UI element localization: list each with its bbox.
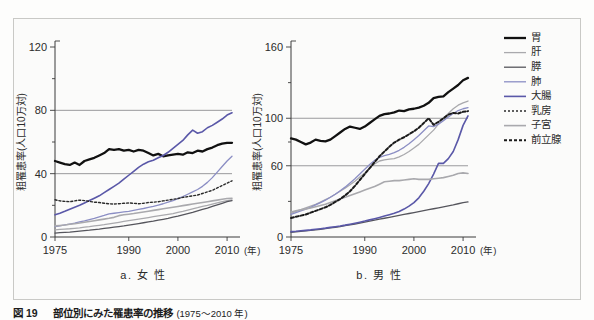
legend-item-colon[interactable]: 大腸 (504, 89, 552, 101)
legend-label-colon: 大腸 (531, 89, 552, 101)
legend-label-prostate: 前立腺 (531, 133, 562, 145)
ytick-label-0: 0 (277, 231, 283, 243)
xtick-label-1990: 1990 (117, 244, 141, 256)
legend-item-uterus[interactable]: 子宮 (504, 118, 551, 130)
panel-subtitle-male: b. 男 性 (356, 268, 402, 281)
panels-layer: 040801201975199020002010(年)粗罹患率(人口10万対)a… (15, 41, 496, 281)
xtick-label-2010: 2010 (451, 244, 475, 256)
legend-label-pancreas: 膵 (531, 60, 542, 72)
legend-label-uterus: 子宮 (531, 118, 551, 130)
legend-item-stomach[interactable]: 胃 (504, 31, 541, 43)
caption-title: 部位別にみた罹患率の推移 (53, 307, 173, 319)
legend-label-lung: 肺 (531, 75, 542, 87)
ytick-label-60: 60 (271, 160, 283, 172)
x-axis-unit: (年) (480, 245, 496, 256)
ytick-label-120: 120 (29, 41, 47, 53)
legend-item-lung[interactable]: 肺 (504, 75, 542, 87)
chart-panel-male: 0601001601975199020002010(年)粗罹患率(人口10万対)… (251, 41, 496, 281)
legend-item-prostate[interactable]: 前立腺 (504, 133, 562, 145)
y-axis-label: 粗罹患率(人口10万対) (15, 93, 27, 191)
ytick-label-40: 40 (35, 168, 47, 180)
chart-panel-female: 040801201975199020002010(年)粗罹患率(人口10万対)a… (15, 41, 260, 281)
series-line-colon-male (291, 116, 468, 232)
ytick-label-100: 100 (265, 112, 283, 124)
series-line-uterus-male (291, 173, 468, 212)
legend-item-breast[interactable]: 乳房 (504, 104, 551, 116)
caption-years: (1975〜2010 年) (176, 308, 247, 319)
chart-legend: 胃肝膵肺大腸乳房子宮前立腺 (504, 31, 562, 145)
legend-item-pancreas[interactable]: 膵 (504, 60, 542, 72)
panel-subtitle-female: a. 女 性 (120, 268, 166, 281)
legend-item-liver[interactable]: 肝 (504, 45, 542, 57)
figure-caption: 図 19 部位別にみた罹患率の推移 (1975〜2010 年) (13, 305, 248, 320)
y-axis-label: 粗罹患率(人口10万対) (251, 93, 263, 191)
series-line-prostate-male (291, 111, 468, 218)
ytick-label-160: 160 (265, 41, 283, 53)
xtick-label-1975: 1975 (279, 244, 303, 256)
series-line-stomach-female (55, 143, 232, 165)
x-axis-unit: (年) (244, 245, 260, 256)
legend-label-breast: 乳房 (531, 104, 551, 116)
caption-label: 図 19 (13, 307, 38, 319)
series-line-lung-female (55, 156, 232, 226)
ytick-label-80: 80 (35, 104, 47, 116)
series-line-stomach-male (291, 78, 468, 145)
xtick-label-1975: 1975 (43, 244, 67, 256)
xtick-label-2000: 2000 (166, 244, 190, 256)
ytick-label-0: 0 (41, 231, 47, 243)
legend-label-liver: 肝 (531, 45, 542, 57)
xtick-label-2000: 2000 (402, 244, 426, 256)
xtick-label-1990: 1990 (353, 244, 377, 256)
chart-canvas: 040801201975199020002010(年)粗罹患率(人口10万対)a… (0, 0, 594, 320)
legend-label-stomach: 胃 (531, 31, 541, 43)
figure-root: 040801201975199020002010(年)粗罹患率(人口10万対)a… (0, 0, 594, 320)
xtick-label-2010: 2010 (215, 244, 239, 256)
